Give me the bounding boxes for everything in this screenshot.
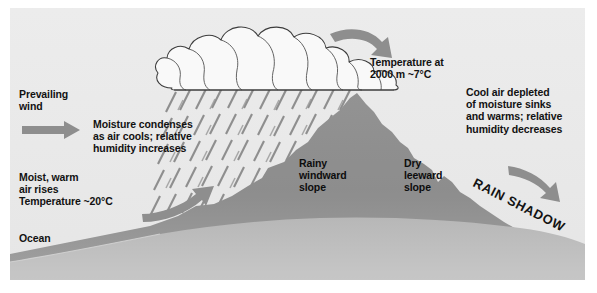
label-moist-warm-air: Moist, warm air rises Temperature ~20°C [19, 171, 113, 208]
label-dry-leeward-slope: Dry leeward slope [404, 157, 442, 194]
label-temperature-2000m: Temperature at 2000 m ~7°C [370, 56, 444, 80]
label-ocean: Ocean [19, 232, 51, 244]
label-rainy-windward-slope: Rainy windward slope [299, 157, 347, 194]
rain-shadow-diagram: Prevailing wind Moisture condenses as ai… [0, 0, 597, 293]
label-cool-air-depleted: Cool air depleted of moisture sinks and … [466, 86, 562, 135]
label-prevailing-wind: Prevailing wind [19, 88, 68, 112]
diagram-canvas [0, 0, 597, 293]
label-moisture-condenses: Moisture condenses as air cools; relativ… [93, 118, 193, 155]
